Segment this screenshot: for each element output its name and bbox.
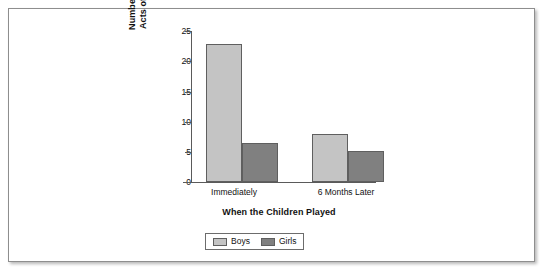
y-tick-mark-0 xyxy=(185,182,191,183)
bar-boys-immediately[interactable] xyxy=(206,44,242,182)
chart-legend: Boys Girls xyxy=(205,233,304,250)
bar-girls-6-months-later[interactable] xyxy=(348,151,384,182)
y-axis-line xyxy=(191,31,192,183)
x-axis-line xyxy=(183,182,376,183)
y-axis-title-line-2: Acts of Aggression xyxy=(138,0,149,47)
bar-girls-immediately[interactable] xyxy=(242,143,278,182)
y-axis-title-line-1: Number of Imitative xyxy=(127,0,138,47)
figure-frame: Number of Imitative Acts of Aggression 0… xyxy=(8,8,535,262)
y-tick-mark-25 xyxy=(185,31,191,32)
legend-entry-girls[interactable]: Girls xyxy=(261,237,296,246)
y-tick-mark-10 xyxy=(185,122,191,123)
x-axis-title: When the Children Played xyxy=(169,207,389,217)
y-axis-title: Number of Imitative Acts of Aggression xyxy=(127,0,157,47)
legend-label-boys: Boys xyxy=(231,237,250,246)
x-category-label-6-months-later: 6 Months Later xyxy=(295,187,397,197)
bar-boys-6-months-later[interactable] xyxy=(312,134,348,182)
x-category-label-immediately: Immediately xyxy=(189,187,279,197)
y-tick-mark-20 xyxy=(185,61,191,62)
y-tick-mark-15 xyxy=(185,92,191,93)
y-tick-mark-5 xyxy=(185,152,191,153)
legend-entry-boys[interactable]: Boys xyxy=(213,237,250,246)
legend-label-girls: Girls xyxy=(279,237,296,246)
legend-swatch-girls-icon xyxy=(261,238,275,246)
bar-chart: Number of Imitative Acts of Aggression 0… xyxy=(9,9,536,263)
legend-swatch-boys-icon xyxy=(213,238,227,246)
